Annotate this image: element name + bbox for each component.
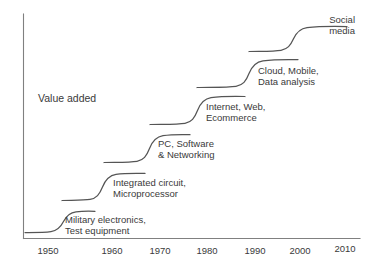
wave-label-pc-software-line1: PC, Software (158, 138, 214, 149)
wave-label-social-media-line1: Social (329, 14, 355, 25)
y-axis-title: Value added (38, 92, 96, 104)
wave-label-integrated-circuit-line2: Microprocessor (113, 188, 178, 199)
wave-label-internet-web-line2: Ecommerce (206, 112, 257, 123)
wave-label-integrated-circuit-line1: Integrated circuit, (113, 177, 186, 188)
wave-label-internet-web-line1: Internet, Web, (206, 101, 266, 112)
x-tick-label-1980: 1980 (196, 245, 217, 256)
wave-label-military-line1: Military electronics, (65, 214, 146, 225)
wave-label-pc-software-line2: & Networking (158, 149, 215, 160)
x-tick-label-2010: 2010 (334, 243, 355, 254)
wave-label-cloud-mobile-line1: Cloud, Mobile, (258, 65, 319, 76)
wave-label-social-media-line2: media (329, 25, 356, 36)
wave-label-cloud-mobile-line2: Data analysis (258, 76, 315, 87)
x-tick-label-1990: 1990 (244, 245, 265, 256)
chart-container: Value added Military electronics, Test e… (0, 0, 372, 266)
x-tick-label-1950: 1950 (37, 245, 58, 256)
wave-label-military-line2: Test equipment (65, 225, 130, 236)
x-tick-label-1960: 1960 (101, 245, 122, 256)
x-tick-label-2000: 2000 (289, 245, 310, 256)
value-added-chart: Value added Military electronics, Test e… (0, 0, 372, 266)
x-tick-label-1970: 1970 (149, 245, 170, 256)
